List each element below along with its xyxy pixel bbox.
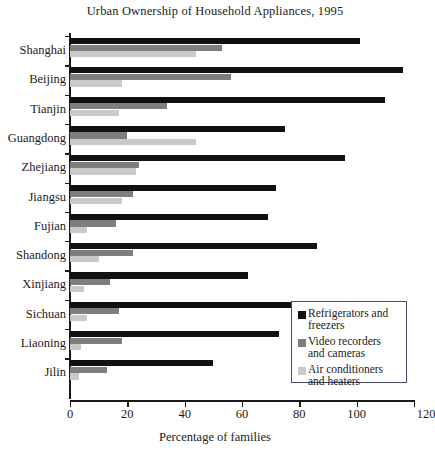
bar <box>70 97 385 103</box>
bar <box>70 344 81 350</box>
x-axis-tick <box>299 400 300 407</box>
bar-group: Guangdong <box>70 124 414 153</box>
bar <box>70 214 268 220</box>
chart-legend: Refrigerators and freezersVideo recorder… <box>291 301 407 383</box>
y-axis-tick-label: Shandong <box>16 248 66 263</box>
bar <box>70 139 196 145</box>
x-axis-tick <box>414 400 415 407</box>
legend-item[interactable]: Video recorders and cameras <box>298 336 402 359</box>
bar <box>70 132 127 138</box>
bar-group: Zhejiang <box>70 153 414 182</box>
x-axis-tick-label: 20 <box>121 407 134 422</box>
bar-group: Jiangsu <box>70 183 414 212</box>
bar <box>70 67 403 73</box>
x-axis-tick-label: 60 <box>236 407 249 422</box>
y-axis-tick-label: Tianjin <box>30 102 66 117</box>
y-axis-tick-label: Jiangsu <box>29 190 67 205</box>
y-axis-tick-label: Zhejiang <box>22 160 66 175</box>
bar <box>70 272 248 278</box>
bar <box>70 220 116 226</box>
bar <box>70 155 345 161</box>
bar <box>70 191 133 197</box>
y-axis-tick-label: Jilin <box>44 365 66 380</box>
bar-group: Shanghai <box>70 36 414 65</box>
bar <box>70 256 99 262</box>
bar <box>70 198 122 204</box>
bar <box>70 279 110 285</box>
bar <box>70 373 79 379</box>
x-axis-tick <box>357 400 358 407</box>
x-axis-tick-label: 0 <box>67 407 73 422</box>
bar <box>70 185 276 191</box>
bar <box>70 74 231 80</box>
x-axis-tick <box>242 400 243 407</box>
bar <box>70 286 84 292</box>
bar <box>70 168 136 174</box>
y-axis-tick-label: Guangdong <box>8 131 66 146</box>
bar <box>70 243 317 249</box>
legend-swatch-air-conditioners <box>298 367 306 375</box>
legend-swatch-refrigerators <box>298 311 306 319</box>
y-axis-tick-label: Liaoning <box>21 336 66 351</box>
bar <box>70 110 119 116</box>
bar <box>70 45 222 51</box>
bar <box>70 126 285 132</box>
legend-item[interactable]: Air conditioners and heaters <box>298 364 402 387</box>
legend-item[interactable]: Refrigerators and freezers <box>298 308 402 331</box>
bar <box>70 51 196 57</box>
bar <box>70 360 213 366</box>
bar <box>70 227 87 233</box>
x-axis-tick <box>127 400 128 407</box>
bar <box>70 250 133 256</box>
legend-swatch-video-recorders <box>298 339 306 347</box>
y-axis-tick-label: Sichuan <box>26 307 66 322</box>
bar <box>70 315 87 321</box>
bar <box>70 80 122 86</box>
y-axis-tick-label: Fujian <box>34 219 66 234</box>
y-axis-tick-label: Shanghai <box>19 43 66 58</box>
x-axis-tick <box>185 400 186 407</box>
x-axis-tick-label: 40 <box>178 407 191 422</box>
bar-group: Xinjiang <box>70 270 414 299</box>
bar <box>70 38 360 44</box>
bar-group: Beijing <box>70 65 414 94</box>
chart-title: Urban Ownership of Household Appliances,… <box>0 4 430 19</box>
bar-group: Tianjin <box>70 95 414 124</box>
bar <box>70 308 119 314</box>
x-axis-tick <box>70 400 71 407</box>
y-axis-tick-label: Beijing <box>29 72 66 87</box>
bar <box>70 103 167 109</box>
x-axis-tick-label: 120 <box>417 407 435 422</box>
bar <box>70 302 291 308</box>
x-axis-tick-label: 80 <box>293 407 306 422</box>
legend-item-label: Refrigerators and freezers <box>308 308 388 331</box>
y-axis-tick-label: Xinjiang <box>22 277 66 292</box>
bar <box>70 331 279 337</box>
legend-item-label: Video recorders and cameras <box>308 336 381 359</box>
bar <box>70 162 139 168</box>
bar-group: Shandong <box>70 241 414 270</box>
bar <box>70 338 122 344</box>
bar-group: Fujian <box>70 212 414 241</box>
x-axis-title: Percentage of families <box>0 430 430 445</box>
bar <box>70 367 107 373</box>
x-axis-tick-label: 100 <box>347 407 366 422</box>
legend-item-label: Air conditioners and heaters <box>308 364 383 387</box>
